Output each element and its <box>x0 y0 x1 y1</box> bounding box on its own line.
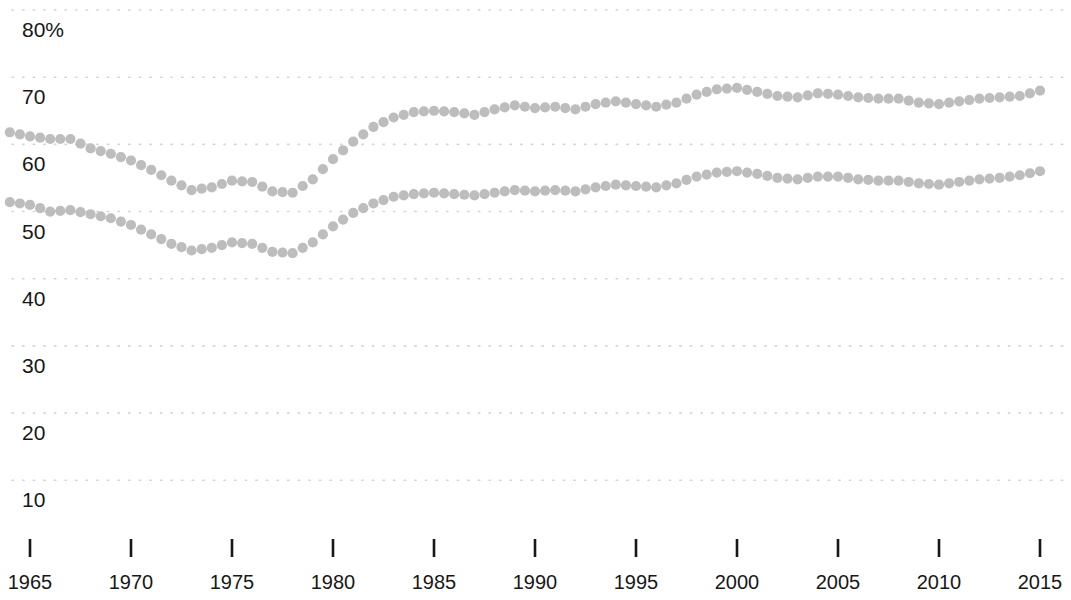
data-point <box>247 177 257 187</box>
data-point <box>368 122 378 132</box>
data-point <box>156 170 166 180</box>
data-point <box>419 188 429 198</box>
data-point <box>55 134 65 144</box>
data-point <box>318 164 328 174</box>
data-point <box>772 173 782 183</box>
data-point <box>479 189 489 199</box>
data-point <box>580 102 590 112</box>
data-point <box>803 90 813 100</box>
data-point <box>813 172 823 182</box>
data-point <box>490 104 500 114</box>
y-axis-labels: 1020304050607080% <box>22 18 64 511</box>
data-point <box>247 239 257 249</box>
data-point <box>793 92 803 102</box>
data-point <box>378 195 388 205</box>
data-point <box>530 186 540 196</box>
data-point <box>116 217 126 227</box>
data-point <box>823 89 833 99</box>
data-point <box>803 173 813 183</box>
data-point <box>389 112 399 122</box>
data-point <box>217 179 227 189</box>
data-point <box>469 190 479 200</box>
data-point <box>631 181 641 191</box>
data-point <box>984 174 994 184</box>
data-point <box>883 176 893 186</box>
data-point <box>530 103 540 113</box>
data-point <box>692 172 702 182</box>
data-point <box>25 200 35 210</box>
data-point <box>227 237 237 247</box>
data-point <box>207 243 217 253</box>
data-point <box>429 188 439 198</box>
data-point <box>65 134 75 144</box>
chart-container: 1020304050607080% 1965197019751980198519… <box>0 0 1071 600</box>
data-point <box>742 167 752 177</box>
x-axis-label: 1975 <box>210 571 255 593</box>
data-point <box>681 175 691 185</box>
data-point <box>591 99 601 109</box>
y-axis-label: 20 <box>22 421 45 444</box>
data-point <box>843 91 853 101</box>
y-axis-label: 30 <box>22 354 45 377</box>
data-point <box>96 211 106 221</box>
y-axis-label: 10 <box>22 488 45 511</box>
data-point <box>86 143 96 153</box>
data-point <box>651 182 661 192</box>
data-point <box>479 107 489 117</box>
data-point <box>338 145 348 155</box>
data-point <box>358 129 368 139</box>
data-point <box>671 178 681 188</box>
data-point <box>924 98 934 108</box>
data-point <box>995 92 1005 102</box>
data-point <box>106 149 116 159</box>
x-axis-label: 2015 <box>1018 571 1063 593</box>
x-axis-ticks <box>30 539 1040 557</box>
data-point <box>722 167 732 177</box>
data-point <box>368 198 378 208</box>
data-point <box>762 171 772 181</box>
data-point <box>1025 88 1035 98</box>
data-point <box>510 100 520 110</box>
data-point <box>378 117 388 127</box>
data-point <box>853 174 863 184</box>
x-axis-label: 1965 <box>8 571 53 593</box>
data-point <box>601 98 611 108</box>
data-point <box>984 93 994 103</box>
data-point <box>793 174 803 184</box>
y-axis-label: 60 <box>22 152 45 175</box>
data-point <box>237 176 247 186</box>
data-point <box>722 84 732 94</box>
data-point <box>459 190 469 200</box>
data-point <box>671 98 681 108</box>
data-point <box>732 166 742 176</box>
data-point <box>217 240 227 250</box>
data-point <box>288 188 298 198</box>
x-axis-label: 2005 <box>816 571 861 593</box>
data-point <box>75 139 85 149</box>
data-point <box>197 184 207 194</box>
data-point <box>136 160 146 170</box>
data-point <box>540 102 550 112</box>
data-point <box>328 154 338 164</box>
x-axis-label: 2010 <box>917 571 962 593</box>
data-point <box>520 102 530 112</box>
y-axis-label: 50 <box>22 220 45 243</box>
data-point <box>772 91 782 101</box>
data-point <box>833 172 843 182</box>
data-point <box>934 99 944 109</box>
data-point <box>459 108 469 118</box>
data-point <box>742 85 752 95</box>
data-point <box>389 192 399 202</box>
data-point <box>5 127 15 137</box>
data-point <box>156 234 166 244</box>
data-point <box>944 178 954 188</box>
data-point <box>782 174 792 184</box>
data-point <box>752 87 762 97</box>
data-point <box>661 180 671 190</box>
data-point <box>833 90 843 100</box>
data-point <box>782 92 792 102</box>
data-point <box>964 95 974 105</box>
data-point <box>641 100 651 110</box>
data-point <box>712 167 722 177</box>
data-point <box>1005 172 1015 182</box>
